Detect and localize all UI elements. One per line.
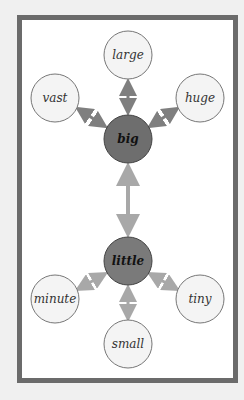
label-large: large — [98, 48, 158, 62]
label-tiny: tiny — [170, 292, 230, 306]
arrow-big-huge — [152, 110, 175, 125]
label-minute: minute — [25, 292, 85, 306]
arrow-little-minute — [80, 275, 103, 288]
label-huge: huge — [170, 91, 230, 105]
label-little: little — [98, 254, 158, 268]
label-vast: vast — [25, 91, 85, 105]
arrow-little-tiny — [152, 275, 175, 288]
label-big: big — [98, 132, 158, 146]
label-small: small — [98, 337, 158, 351]
arrow-big-vast — [80, 110, 103, 125]
